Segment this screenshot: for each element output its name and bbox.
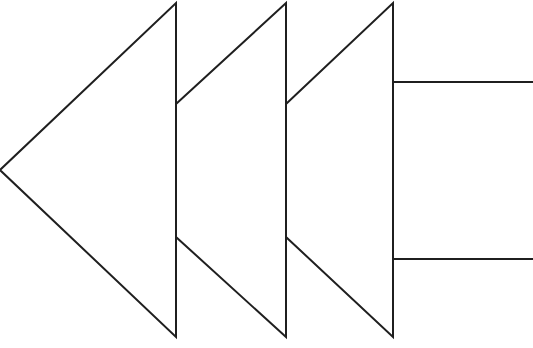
arrow-tail-rectangle — [393, 82, 533, 259]
arrow-head-first — [0, 3, 176, 337]
arrow-head-second — [176, 3, 286, 337]
arrow-head-third — [286, 3, 393, 337]
arrow-diagram — [0, 0, 533, 348]
